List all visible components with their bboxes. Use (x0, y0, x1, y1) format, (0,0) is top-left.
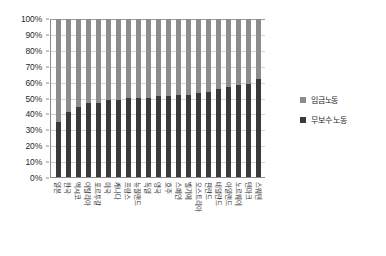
bar-segment-paid-labor (106, 19, 111, 100)
stacked-bar[interactable] (166, 19, 171, 177)
stacked-bar[interactable] (196, 19, 201, 177)
x-axis-tick-label: 미국 (104, 182, 111, 194)
bar-segment-unpaid-labor (56, 122, 61, 177)
bar-slot (63, 19, 73, 177)
y-axis-tick-mark (46, 162, 49, 163)
x-axis-tick-label: 스페인 (174, 182, 181, 200)
x-axis-tick: 독일 (142, 179, 152, 249)
y-axis-tick-label: 0% (30, 173, 42, 183)
bar-group (51, 19, 265, 177)
x-axis-tick: 호주 (163, 179, 173, 249)
bar-segment-unpaid-labor (116, 100, 121, 177)
x-axis-tick: 포르투갈 (92, 179, 102, 249)
x-axis-tick: 미국 (102, 179, 112, 249)
bar-segment-paid-labor (56, 19, 61, 122)
x-axis-tick: 스페인 (173, 179, 183, 249)
bar-slot (253, 19, 263, 177)
x-axis-tick-label: 프랑스 (124, 182, 131, 200)
bar-segment-paid-labor (176, 19, 181, 95)
y-axis-tick-label: 60% (26, 78, 42, 88)
stacked-bar[interactable] (96, 19, 101, 177)
bar-segment-paid-labor (116, 19, 121, 100)
bar-segment-paid-labor (216, 19, 221, 89)
stacked-bar[interactable] (236, 19, 241, 177)
bar-slot (73, 19, 83, 177)
x-axis-tick: 멕시코 (72, 179, 82, 249)
bar-segment-unpaid-labor (246, 84, 251, 177)
stacked-bar[interactable] (216, 19, 221, 177)
x-axis-tick-label: 스웨덴 (255, 182, 262, 200)
x-axis-tick-label: 이탈리아 (84, 182, 91, 206)
stacked-bar[interactable] (146, 19, 151, 177)
bar-slot (193, 19, 203, 177)
stacked-bar[interactable] (156, 19, 161, 177)
bar-segment-unpaid-labor (76, 107, 81, 177)
x-axis-tick: 한국 (62, 179, 72, 249)
x-axis-tick: 덴마크 (243, 179, 253, 249)
bar-segment-unpaid-labor (226, 87, 231, 177)
y-axis-tick-label: 70% (26, 62, 42, 72)
x-axis-tick: 이탈리아 (82, 179, 92, 249)
y-axis-tick-mark (46, 98, 49, 99)
bar-segment-paid-labor (236, 19, 241, 85)
bar-segment-unpaid-labor (186, 95, 191, 177)
bar-slot (153, 19, 163, 177)
bar-segment-unpaid-labor (86, 103, 91, 177)
x-axis-tick: 캐나다 (112, 179, 122, 249)
stacked-bar[interactable] (246, 19, 251, 177)
x-axis-tick-label: 호주 (164, 182, 171, 194)
stacked-bar[interactable] (106, 19, 111, 177)
bar-segment-unpaid-labor (66, 112, 71, 177)
stacked-bar[interactable] (256, 19, 261, 177)
bar-slot (103, 19, 113, 177)
stacked-bar[interactable] (206, 19, 211, 177)
bar-segment-paid-labor (166, 19, 171, 96)
bar-slot (183, 19, 193, 177)
stacked-bar[interactable] (116, 19, 121, 177)
bar-segment-paid-labor (256, 19, 261, 79)
y-axis: 100%90%80%70%60%50%40%30%20%10%0% (0, 19, 46, 178)
stacked-bar[interactable] (136, 19, 141, 177)
x-axis-tick-label: 네덜란드 (215, 182, 222, 206)
stacked-bar[interactable] (186, 19, 191, 177)
bar-slot (53, 19, 63, 177)
bar-segment-paid-labor (186, 19, 191, 95)
bar-segment-unpaid-labor (176, 95, 181, 177)
y-axis-tick-label: 100% (21, 14, 42, 24)
x-axis-tick-label: 뉴질랜드 (134, 182, 141, 206)
stacked-bar[interactable] (176, 19, 181, 177)
stacked-bar[interactable] (126, 19, 131, 177)
x-axis-tick-label: 포르투갈 (94, 182, 101, 206)
y-axis-tick-label: 40% (26, 109, 42, 119)
y-axis-tick-mark (46, 178, 49, 179)
x-axis-tick-label: 한국 (64, 182, 71, 194)
stacked-bar[interactable] (226, 19, 231, 177)
y-axis-tick-label: 90% (26, 30, 42, 40)
legend-item[interactable]: 임금노동 (300, 94, 347, 105)
bar-slot (93, 19, 103, 177)
x-axis: 일본한국멕시코이탈리아포르투갈미국캐나다프랑스뉴질랜드독일영국호주스페인벨기에오… (50, 179, 265, 249)
y-axis-tick-label: 20% (26, 141, 42, 151)
plot-area (50, 19, 265, 178)
bar-segment-unpaid-labor (166, 96, 171, 177)
stacked-bar[interactable] (56, 19, 61, 177)
bar-slot (83, 19, 93, 177)
bar-slot (213, 19, 223, 177)
legend-item[interactable]: 무보수 노동 (300, 114, 347, 125)
bar-segment-unpaid-labor (136, 98, 141, 177)
bar-segment-paid-labor (136, 19, 141, 98)
bar-segment-unpaid-labor (126, 98, 131, 177)
bar-segment-paid-labor (96, 19, 101, 103)
x-axis-tick-label: 캐나다 (114, 182, 121, 200)
stacked-bar-chart: 100%90%80%70%60%50%40%30%20%10%0% 일본한국멕시… (0, 0, 386, 256)
bar-slot (223, 19, 233, 177)
x-axis-tick: 영국 (152, 179, 162, 249)
stacked-bar[interactable] (66, 19, 71, 177)
x-axis-tick: 네덜란드 (213, 179, 223, 249)
bar-segment-paid-labor (156, 19, 161, 96)
stacked-bar[interactable] (76, 19, 81, 177)
y-axis-tick-mark (46, 19, 49, 20)
bar-segment-unpaid-labor (236, 85, 241, 177)
bar-slot (203, 19, 213, 177)
stacked-bar[interactable] (86, 19, 91, 177)
